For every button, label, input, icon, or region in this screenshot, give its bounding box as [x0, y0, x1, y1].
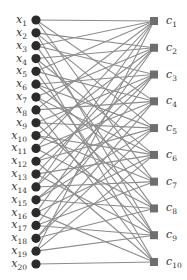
variable-node-x3: [31, 41, 40, 50]
check-node-c1: [150, 17, 158, 25]
check-node-c8: [150, 204, 158, 212]
check-node-c2: [150, 44, 158, 52]
check-label-c6: c6: [166, 148, 177, 163]
variable-node-x8: [31, 105, 40, 114]
variable-node-x17: [31, 221, 40, 230]
bipartite-factor-graph: x1x2x3x4x5x6x7x8x9x10x11x12x13x14x15x16x…: [0, 0, 187, 280]
variable-node-x11: [31, 144, 40, 153]
check-label-c1: c1: [166, 14, 177, 29]
variable-node-x12: [31, 157, 40, 166]
variable-label-x20: x20: [11, 257, 27, 272]
variable-node-x10: [31, 131, 40, 140]
check-nodes: c1c2c3c4c5c6c7c8c9c10: [150, 14, 182, 270]
check-node-c9: [150, 231, 158, 239]
edges-layer: [36, 20, 154, 264]
check-node-c7: [150, 178, 158, 186]
check-label-c10: c10: [166, 255, 182, 270]
variable-node-x19: [31, 247, 40, 256]
check-node-c5: [150, 124, 158, 132]
check-node-c10: [150, 258, 158, 266]
variable-label-x9: x9: [16, 116, 27, 131]
edge-x19-c1: [36, 21, 154, 251]
variable-node-x20: [31, 259, 40, 268]
check-label-c3: c3: [166, 68, 177, 83]
check-label-c9: c9: [166, 228, 177, 243]
check-node-c6: [150, 151, 158, 159]
variable-node-x4: [31, 54, 40, 63]
edge-x12-c3: [36, 75, 154, 162]
variable-node-x15: [31, 195, 40, 204]
variable-node-x2: [31, 28, 40, 37]
check-label-c4: c4: [166, 94, 177, 109]
variable-node-x6: [31, 80, 40, 89]
variable-node-x14: [31, 182, 40, 191]
edge-x20-c10: [36, 262, 154, 264]
check-label-c7: c7: [166, 175, 177, 190]
variable-node-x1: [31, 15, 40, 24]
edge-x4-c2: [36, 48, 154, 59]
variable-node-x7: [31, 92, 40, 101]
variable-node-x9: [31, 118, 40, 127]
variable-node-x13: [31, 170, 40, 179]
check-node-c3: [150, 71, 158, 79]
variable-nodes: x1x2x3x4x5x6x7x8x9x10x11x12x13x14x15x16x…: [11, 13, 40, 272]
variable-node-x16: [31, 208, 40, 217]
check-label-c8: c8: [166, 201, 177, 216]
check-node-c4: [150, 97, 158, 105]
check-label-c2: c2: [166, 41, 177, 56]
edge-x3-c1: [36, 21, 154, 46]
variable-node-x18: [31, 234, 40, 243]
edge-x10-c7: [36, 136, 154, 182]
variable-node-x5: [31, 67, 40, 76]
check-label-c5: c5: [166, 121, 177, 136]
edge-x1-c1: [36, 20, 154, 21]
edge-x13-c2: [36, 48, 154, 174]
edge-x12-c10: [36, 161, 154, 262]
